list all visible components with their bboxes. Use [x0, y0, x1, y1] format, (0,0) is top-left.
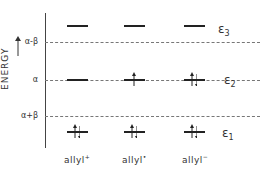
label-allyl-cation: allyl+ — [64, 153, 90, 165]
level-e3-allyl-radical — [124, 25, 145, 27]
label-epsilon-2: ε2 — [224, 73, 236, 89]
level-e2-allyl-cation — [67, 79, 88, 81]
electron-pair-icon — [129, 124, 137, 138]
electron-pair-icon — [189, 124, 197, 138]
dashed-line-alpha-minus-beta — [45, 42, 260, 43]
electron-pair-icon — [189, 72, 197, 86]
level-e3-allyl-anion — [184, 25, 205, 27]
dashed-line-alpha-plus-beta — [45, 116, 260, 117]
label-allyl-anion: allyl− — [182, 153, 208, 165]
spin-up-electron-icon — [130, 72, 138, 86]
electron-pair-icon — [72, 124, 80, 138]
label-epsilon-1: ε1 — [222, 126, 234, 142]
tick-alpha: α — [4, 75, 38, 84]
level-e3-allyl-cation — [67, 25, 88, 27]
tick-alpha-minus-beta: α-β — [4, 37, 38, 46]
label-epsilon-3: ε3 — [218, 22, 230, 38]
label-allyl-radical: allyl• — [122, 153, 147, 165]
tick-alpha-plus-beta: α+β — [4, 111, 38, 120]
